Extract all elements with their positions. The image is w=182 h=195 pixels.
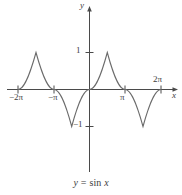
figure-caption: y=sinx xyxy=(0,178,182,188)
caption-function: sin xyxy=(89,177,101,188)
y-axis-label: y xyxy=(80,1,84,10)
x-tick-label-pi: π xyxy=(120,93,125,102)
y-tick-label-one: 1 xyxy=(76,46,81,55)
sine-graph-figure: −2π −π π 2π 1 −1 x y y=sinx xyxy=(0,0,182,195)
caption-lhs: y xyxy=(73,177,77,188)
sine-plot-canvas xyxy=(0,0,182,195)
y-tick-label-neg-one: −1 xyxy=(73,120,83,129)
x-tick-label-neg-pi: −π xyxy=(48,93,58,102)
x-axis-label: x xyxy=(172,91,176,100)
x-tick-label-neg-2pi: −2π xyxy=(9,93,23,102)
caption-equals: = xyxy=(81,177,87,188)
x-tick-label-2pi: 2π xyxy=(153,75,162,84)
caption-variable: x xyxy=(104,177,108,188)
